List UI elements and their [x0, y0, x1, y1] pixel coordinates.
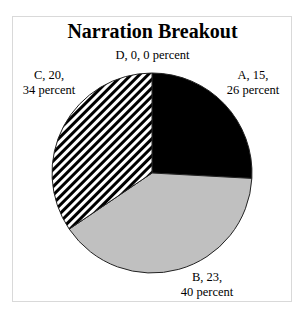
slice-label-b: B, 23, 40 percent	[172, 270, 242, 300]
label-d-line1: D, 0, 0 percent	[0, 48, 305, 63]
label-c-line2: 34 percent	[14, 83, 84, 98]
slice-label-d: D, 0, 0 percent	[0, 48, 305, 63]
label-a-line2: 26 percent	[218, 83, 288, 98]
label-c-line1: C, 20,	[14, 68, 84, 83]
slice-label-c: C, 20, 34 percent	[14, 68, 84, 98]
label-b-line1: B, 23,	[172, 270, 242, 285]
label-a-line1: A, 15,	[218, 68, 288, 83]
label-b-line2: 40 percent	[172, 285, 242, 300]
slice-label-a: A, 15, 26 percent	[218, 68, 288, 98]
